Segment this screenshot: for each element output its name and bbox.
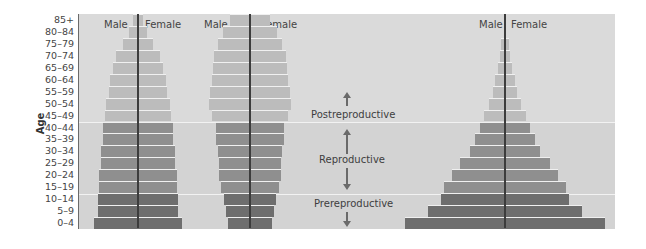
pyramid1-center-axis: [137, 14, 139, 228]
y-tick-label: 40–44: [45, 122, 74, 134]
y-tick-label: 5–9: [57, 205, 74, 217]
y-tick-label: 65–69: [45, 62, 74, 74]
postreproductive-label: Postreproductive: [311, 109, 395, 120]
y-tick-label: 80–84: [45, 26, 74, 38]
y-tick-label: 30–34: [45, 145, 74, 157]
y-tick-label: 35–39: [45, 133, 74, 145]
y-tick-label: 70–74: [45, 50, 74, 62]
y-tick-label: 15–19: [45, 181, 74, 193]
pyramid3-center-axis: [504, 14, 506, 228]
y-axis-title: Age: [35, 109, 46, 139]
y-tick-label: 0–4: [57, 217, 74, 229]
arrow-down-icon: [342, 212, 352, 227]
prereproductive-label: Prereproductive: [314, 198, 393, 209]
pyramid1-male-label: Male: [104, 19, 128, 30]
plot-area: Male Female Male Female Male Female Post…: [78, 14, 615, 229]
y-tick-label: 50–54: [45, 98, 74, 110]
y-tick-label: 55–59: [45, 86, 74, 98]
arrow-updown-icon: [342, 129, 352, 154]
y-tick-label: 75–79: [45, 38, 74, 50]
y-tick-label: 25–29: [45, 157, 74, 169]
pyramid3-male-label: Male: [479, 19, 503, 30]
y-tick-label: 45–49: [45, 110, 74, 122]
arrow-up-icon: [342, 92, 352, 106]
reproductive-label: Reproductive: [319, 154, 385, 165]
y-tick-label: 20–24: [45, 169, 74, 181]
y-tick-label: 60–64: [45, 74, 74, 86]
arrow-down-icon: [342, 168, 352, 190]
y-tick-label: 85+: [54, 14, 74, 26]
y-tick-label: 10–14: [45, 193, 74, 205]
pyramid3-female-label: Female: [511, 19, 547, 30]
pyramid2-center-axis: [249, 14, 251, 228]
pyramid1-female-label: Female: [145, 19, 181, 30]
